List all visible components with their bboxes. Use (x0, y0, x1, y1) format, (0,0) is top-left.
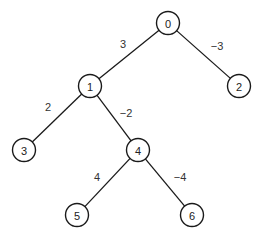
node-label: 5 (74, 210, 80, 222)
edge-1-3 (32, 94, 81, 142)
tree-node-0: 0 (157, 12, 180, 35)
edge-4-5 (85, 158, 130, 206)
node-label: 3 (21, 145, 27, 157)
edge-weight-label: −2 (120, 107, 133, 119)
node-label: 6 (189, 210, 195, 222)
tree-node-5: 5 (66, 204, 89, 227)
edge-0-2 (177, 31, 231, 79)
tree-diagram: 3−32−24−4 0123456 (0, 0, 257, 236)
node-label: 0 (165, 18, 171, 30)
edge-weight-label: −3 (211, 40, 224, 52)
edge-weight-label: 3 (120, 38, 126, 50)
tree-node-6: 6 (181, 204, 204, 227)
tree-node-3: 3 (13, 139, 36, 162)
tree-node-2: 2 (228, 75, 251, 98)
edge-0-1 (99, 30, 159, 79)
node-label: 1 (87, 81, 93, 93)
tree-node-4: 4 (127, 139, 150, 162)
tree-node-1: 1 (79, 75, 102, 98)
edge-weight-label: −4 (174, 171, 187, 183)
node-label: 2 (236, 81, 242, 93)
node-label: 4 (135, 145, 141, 157)
edge-weight-label: 4 (94, 171, 100, 183)
edge-weight-label: 2 (45, 101, 51, 113)
